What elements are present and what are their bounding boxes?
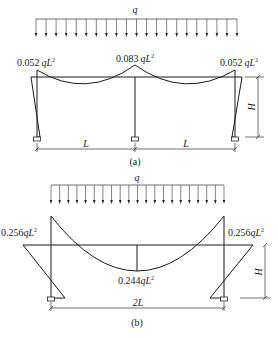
- frame-a: [31, 70, 242, 137]
- distributed-load-a: q: [35, 4, 239, 37]
- support-center-a: [132, 137, 139, 141]
- span-label-b: 2L: [133, 297, 144, 308]
- height-dimension-a: H: [245, 75, 264, 139]
- moment-label-center-a: 0.083qL2: [116, 53, 154, 64]
- moment-label-right-b: 0.256qL2: [228, 227, 264, 238]
- load-label-a: q: [133, 4, 138, 15]
- figure-a: q 0.052qL2 0.083qL2 0.052qL2: [17, 4, 264, 168]
- moment-label-left-b: 0.256qL2: [1, 227, 37, 238]
- moment-label-mid-b: 0.244qL2: [118, 275, 154, 286]
- figure-b: q 0.256qL2 0.256qL2 0.244qL2 2L: [1, 172, 270, 329]
- column-moment-left-b: [23, 245, 65, 298]
- height-label-b: H: [253, 268, 264, 277]
- height-dimension-b: H: [240, 243, 270, 300]
- caption-a: (a): [129, 156, 140, 168]
- support-right-a: [232, 137, 239, 141]
- span-dimension-b: 2L: [49, 297, 226, 311]
- distributed-load-b: q: [50, 172, 226, 204]
- beam-moment-curve-a: [37, 65, 235, 84]
- span-label-right-a: L: [182, 138, 189, 149]
- column-moment-left-a: [31, 77, 40, 137]
- moment-label-left-a: 0.052qL2: [17, 57, 55, 68]
- frame-moment-diagrams: q 0.052qL2 0.083qL2 0.052qL2: [0, 0, 278, 338]
- support-right-b: [221, 297, 228, 301]
- column-moment-right-b: [210, 245, 253, 298]
- moment-label-right-a: 0.052qL2: [220, 57, 258, 68]
- load-label-b: q: [135, 172, 140, 183]
- support-left-b: [48, 297, 55, 301]
- support-left-a: [34, 137, 41, 141]
- column-moment-right-a: [232, 77, 242, 137]
- caption-b: (b): [131, 317, 143, 329]
- height-label-a: H: [246, 103, 257, 112]
- span-label-left-a: L: [82, 138, 89, 149]
